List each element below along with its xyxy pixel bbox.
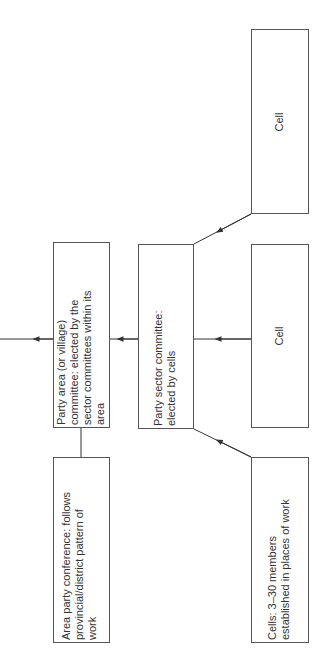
node-sector-committee: Party sector committee: elected by cells [138, 244, 194, 429]
node-cells-bottom: Cells: 3–30 members established in place… [251, 457, 309, 643]
node-area-conference: Area party conference: follows provincia… [53, 457, 110, 643]
node-area-committee-label: Party area (or village) committee: elect… [55, 245, 109, 425]
node-cell-top: Cell [251, 29, 309, 214]
node-cell-middle: Cell [251, 244, 309, 428]
node-cell-top-label: Cell [273, 92, 287, 152]
node-area-committee: Party area (or village) committee: elect… [53, 242, 110, 428]
node-cells-bottom-label: Cells: 3–30 members established in place… [266, 460, 294, 640]
node-area-conference-label: Area party conference: follows provincia… [60, 460, 104, 640]
node-sector-committee-label: Party sector committee: elected by cells [152, 248, 180, 426]
node-cell-middle-label: Cell [273, 306, 287, 366]
